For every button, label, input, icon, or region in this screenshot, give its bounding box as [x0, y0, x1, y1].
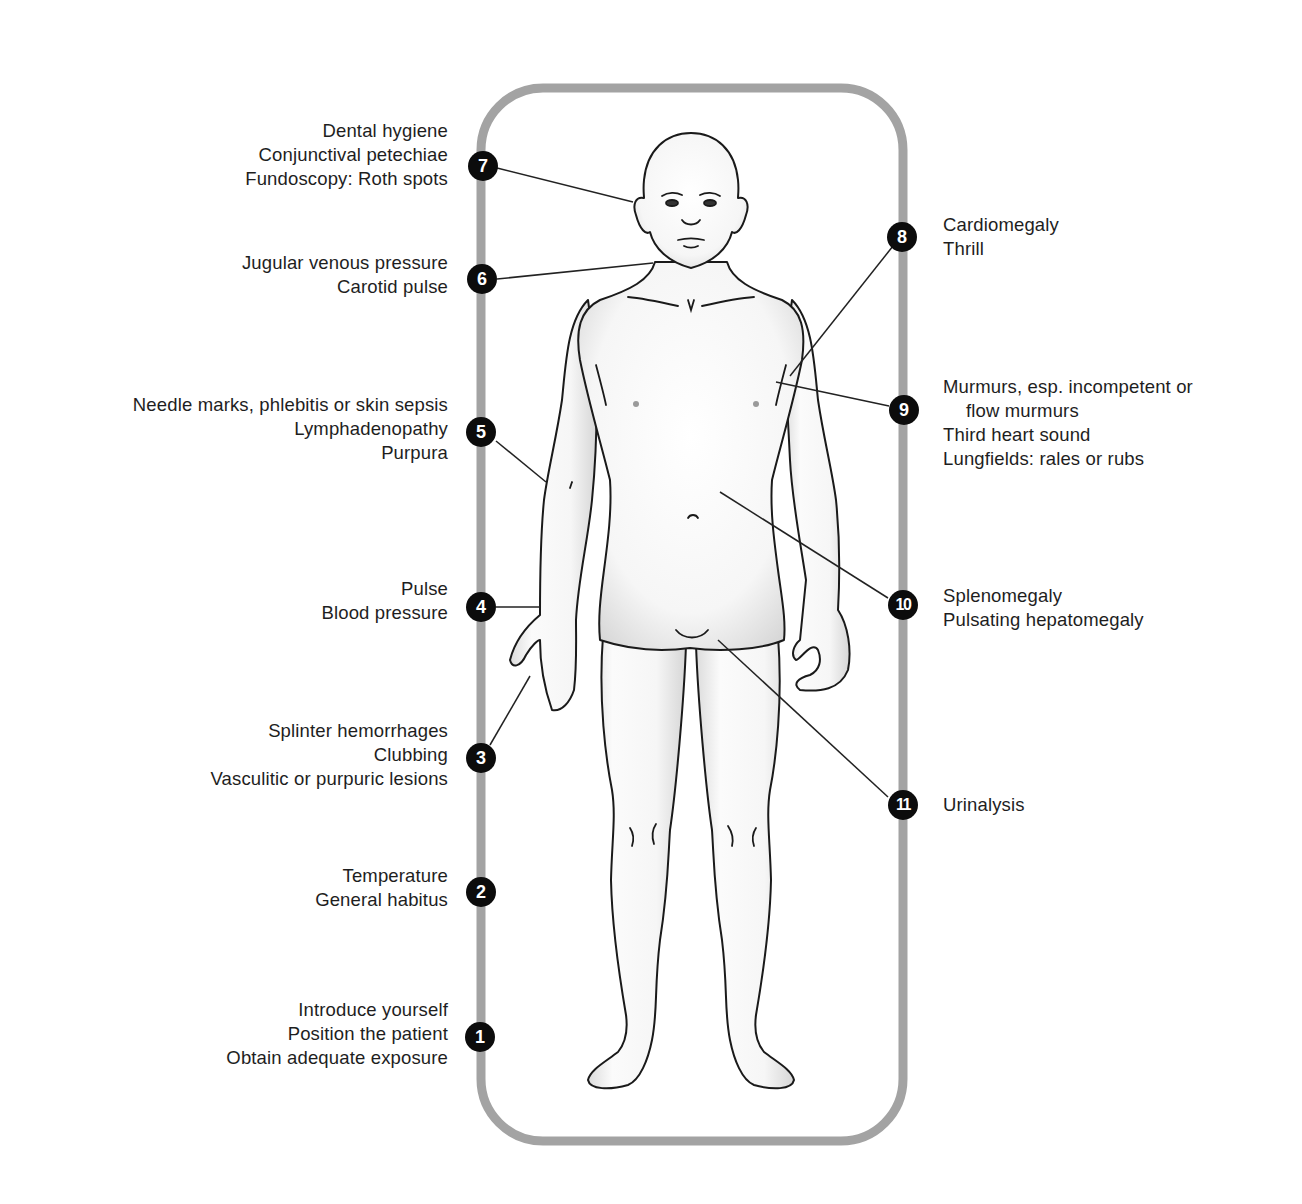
label-line: Vasculitic or purpuric lesions — [210, 767, 448, 791]
label-line: Needle marks, phlebitis or skin sepsis — [133, 393, 448, 417]
label-line: Splenomegaly — [943, 584, 1144, 608]
label-group-3: Splinter hemorrhages Clubbing Vasculitic… — [210, 719, 448, 791]
label-line: Position the patient — [226, 1022, 448, 1046]
label-line: Pulse — [321, 577, 448, 601]
label-group-8: Cardiomegaly Thrill — [943, 213, 1059, 261]
marker-9: 9 — [889, 395, 919, 425]
label-group-5: Needle marks, phlebitis or skin sepsis L… — [133, 393, 448, 465]
label-line: Introduce yourself — [226, 998, 448, 1022]
label-line: Murmurs, esp. incompetent or — [943, 375, 1193, 399]
label-line: Splinter hemorrhages — [210, 719, 448, 743]
marker-1: 1 — [465, 1022, 495, 1052]
label-line: flow murmurs — [943, 399, 1193, 423]
label-line: Lymphadenopathy — [133, 417, 448, 441]
physical-exam-diagram: Dental hygiene Conjunctival petechiae Fu… — [0, 0, 1302, 1204]
label-line: Cardiomegaly — [943, 213, 1059, 237]
label-line: Obtain adequate exposure — [226, 1046, 448, 1070]
label-line: Thrill — [943, 237, 1059, 261]
label-line: Pulsating hepatomegaly — [943, 608, 1144, 632]
right-leg — [696, 636, 794, 1088]
label-group-7: Dental hygiene Conjunctival petechiae Fu… — [245, 119, 448, 191]
marker-7: 7 — [468, 151, 498, 181]
label-group-6: Jugular venous pressure Carotid pulse — [242, 251, 448, 299]
left-leg — [588, 636, 686, 1088]
label-line: General habitus — [315, 888, 448, 912]
label-line: Carotid pulse — [242, 275, 448, 299]
label-group-4: Pulse Blood pressure — [321, 577, 448, 625]
label-line: Third heart sound — [943, 423, 1193, 447]
marker-8: 8 — [887, 222, 917, 252]
marker-10: 10 — [888, 590, 918, 620]
label-group-1: Introduce yourself Position the patient … — [226, 998, 448, 1070]
label-group-10: Splenomegaly Pulsating hepatomegaly — [943, 584, 1144, 632]
marker-3: 3 — [466, 743, 496, 773]
label-line: Temperature — [315, 864, 448, 888]
label-line: Conjunctival petechiae — [245, 143, 448, 167]
label-line: Jugular venous pressure — [242, 251, 448, 275]
label-line: Lungfields: rales or rubs — [943, 447, 1193, 471]
label-line: Purpura — [133, 441, 448, 465]
marker-11: 11 — [888, 790, 918, 820]
label-line: Urinalysis — [943, 793, 1025, 817]
label-group-2: Temperature General habitus — [315, 864, 448, 912]
label-line: Blood pressure — [321, 601, 448, 625]
label-line: Clubbing — [210, 743, 448, 767]
marker-4: 4 — [466, 592, 496, 622]
label-group-11: Urinalysis — [943, 793, 1025, 817]
label-line: Dental hygiene — [245, 119, 448, 143]
label-line: Fundoscopy: Roth spots — [245, 167, 448, 191]
marker-5: 5 — [466, 417, 496, 447]
marker-2: 2 — [466, 877, 496, 907]
label-group-9: Murmurs, esp. incompetent or flow murmur… — [943, 375, 1193, 471]
marker-6: 6 — [467, 264, 497, 294]
torso — [578, 262, 803, 650]
